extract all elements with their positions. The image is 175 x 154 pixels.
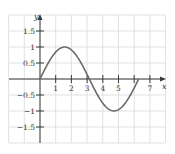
y-tick-label: −1 <box>24 107 35 116</box>
sine-chart: x y 1234571.510.5−0.5−1−1.5 <box>0 0 175 154</box>
x-tick-label: 2 <box>69 84 74 93</box>
y-tick-label: −1.5 <box>17 123 35 132</box>
x-tick-label: 7 <box>148 84 153 93</box>
x-tick-label: 3 <box>85 84 90 93</box>
y-tick-label: −0.5 <box>17 91 35 100</box>
x-tick-label: 1 <box>53 84 58 93</box>
y-tick-label: 0.5 <box>23 59 35 68</box>
y-tick-label: 1 <box>30 43 35 52</box>
x-tick-label: 5 <box>116 84 121 93</box>
x-axis-arrow-icon <box>160 77 166 82</box>
x-axis-label: x <box>162 82 167 91</box>
y-tick-label: 1.5 <box>23 27 35 36</box>
plot-area: x y 1234571.510.5−0.5−1−1.5 <box>0 0 175 154</box>
x-tick-label: 4 <box>100 84 105 93</box>
y-axis-label: y <box>33 12 39 21</box>
